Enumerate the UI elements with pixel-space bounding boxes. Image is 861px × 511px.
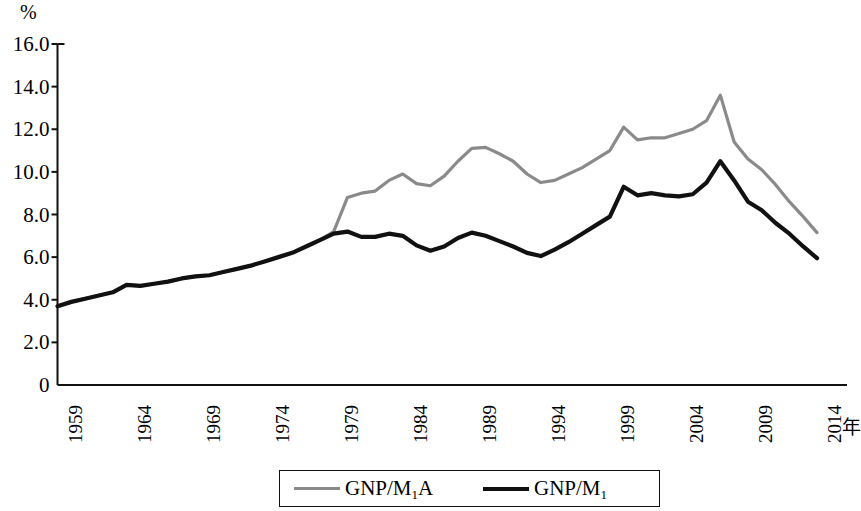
- x-tick-label: 1979: [342, 405, 361, 443]
- chart-legend: GNP/M1A GNP/M1: [279, 470, 660, 507]
- x-tick-label: 1999: [618, 405, 637, 443]
- y-tick-label: 2.0: [4, 332, 50, 353]
- y-tick-label: 10.0: [4, 162, 50, 183]
- y-tick-label: 0: [4, 375, 50, 396]
- series-line-gnp-m1a: [58, 95, 818, 306]
- legend-label-gnp-m1a: GNP/M1A: [345, 476, 433, 501]
- x-tick-label: 2009: [756, 405, 775, 443]
- legend-label-gnp-m1: GNP/M1: [534, 476, 607, 501]
- x-tick-label: 1964: [135, 405, 154, 443]
- legend-swatch-gnp-m1a: [294, 487, 340, 490]
- x-tick-label: 1969: [204, 405, 223, 443]
- y-tick-label: 14.0: [4, 77, 50, 98]
- x-tick-label: 2004: [687, 405, 706, 443]
- x-tick-label: 1984: [411, 405, 430, 443]
- y-tick-label: 16.0: [4, 34, 50, 55]
- x-tick-label: 1994: [549, 405, 568, 443]
- legend-swatch-gnp-m1: [483, 487, 529, 491]
- legend-item-gnp-m1a: GNP/M1A: [294, 471, 433, 506]
- y-tick-label: 12.0: [4, 119, 50, 140]
- x-tick-label: 1974: [273, 405, 292, 443]
- series-line-gnp-m1: [58, 161, 818, 306]
- x-tick-label: 1959: [66, 405, 85, 443]
- x-axis-unit-label: 年: [842, 418, 861, 437]
- legend-item-gnp-m1: GNP/M1: [483, 471, 607, 506]
- chart-axes: [58, 44, 848, 385]
- y-tick-label: 8.0: [4, 205, 50, 226]
- y-tick-label: 6.0: [4, 247, 50, 268]
- x-tick-label: 1989: [480, 405, 499, 443]
- y-tick-label: 4.0: [4, 290, 50, 311]
